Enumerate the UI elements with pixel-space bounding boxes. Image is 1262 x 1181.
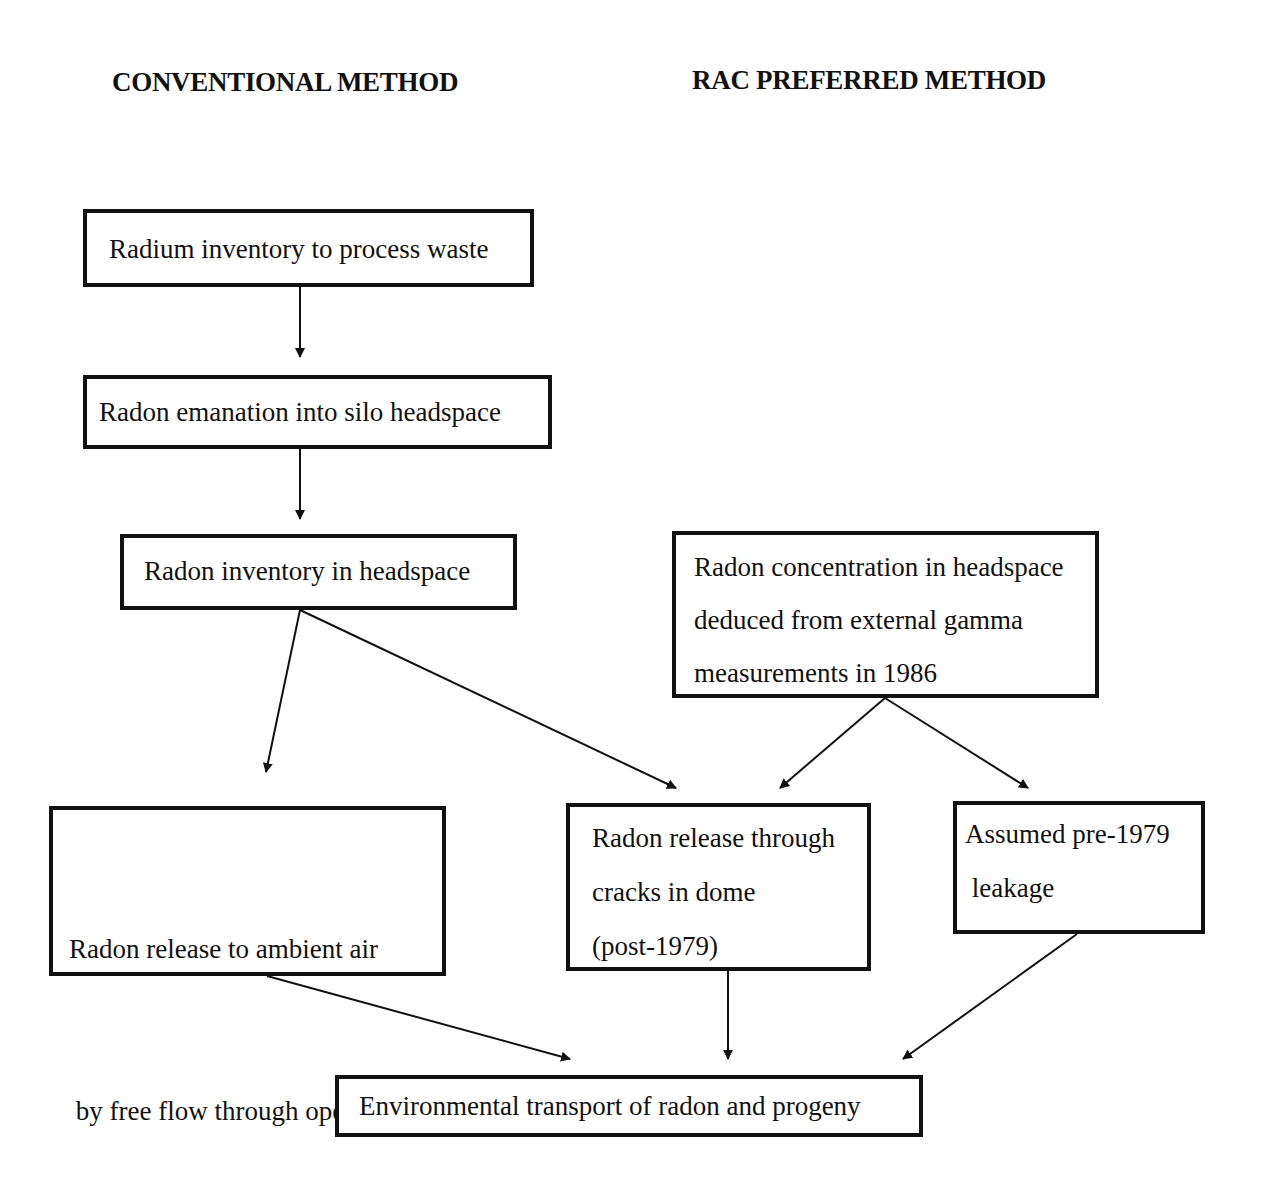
arrow-concentration-to-leakage — [885, 698, 1028, 788]
node-radon-concentration: Radon concentration in headspace deduced… — [672, 531, 1099, 698]
arrow-concentration-to-cracks — [780, 698, 885, 788]
node-text: Assumed pre-1979 — [965, 807, 1201, 861]
node-text: deduced from external gamma — [694, 594, 1095, 647]
heading-rac-preferred-method: RAC PREFERRED METHOD — [692, 65, 1046, 96]
node-text: measurements in 1986 — [694, 647, 1095, 700]
node-text: Radon concentration in headspace — [694, 541, 1095, 594]
node-release-ambient: Radon release to ambient air by free flo… — [49, 806, 446, 976]
node-radon-inventory: Radon inventory in headspace — [120, 534, 517, 610]
heading-conventional-method: CONVENTIONAL METHOD — [112, 67, 458, 98]
node-text: Radon emanation into silo headspace — [99, 383, 548, 441]
arrow-leakage-to-transport — [903, 934, 1077, 1059]
arrow-inventory-to-cracks — [300, 610, 676, 788]
node-text: (post-1979) — [592, 919, 867, 973]
node-text: Environmental transport of radon and pro… — [359, 1079, 919, 1133]
node-text: cracks in dome — [592, 865, 867, 919]
node-text: Radon inventory in headspace — [144, 542, 513, 600]
node-assumed-leakage: Assumed pre-1979 leakage — [953, 801, 1205, 934]
node-radon-emanation: Radon emanation into silo headspace — [83, 375, 552, 449]
node-release-cracks: Radon release through cracks in dome (po… — [566, 803, 871, 971]
node-radium-inventory: Radium inventory to process waste — [83, 209, 534, 287]
node-environmental-transport: Environmental transport of radon and pro… — [335, 1075, 923, 1137]
node-text: Radium inventory to process waste — [109, 219, 530, 279]
arrow-inventory-to-ambient — [266, 610, 300, 772]
node-text: Radon release to ambient air — [69, 922, 442, 976]
node-text: Radon release through — [592, 811, 867, 865]
node-text: leakage — [965, 861, 1201, 915]
